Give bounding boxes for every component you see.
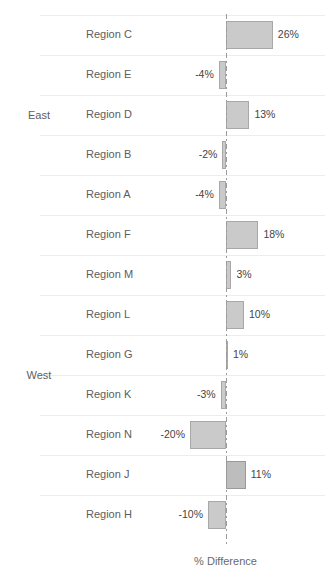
value-label: 26%	[278, 28, 299, 41]
chart-row: Region A-4%	[0, 175, 325, 215]
chart-row: Region B-2%	[0, 135, 325, 175]
category-label: Region A	[86, 188, 131, 201]
category-label: Region H	[86, 508, 132, 521]
gridline	[40, 175, 325, 176]
category-label: Region G	[86, 348, 132, 361]
category-label: Region D	[86, 108, 132, 121]
category-label: Region F	[86, 228, 131, 241]
category-label: Region N	[86, 428, 132, 441]
category-label: Region B	[86, 148, 131, 161]
value-label: -20%	[160, 428, 185, 441]
category-label: Region L	[86, 308, 130, 321]
x-axis-title: % Difference	[0, 555, 325, 568]
gridline	[40, 215, 325, 216]
chart-row: Region J11%	[0, 455, 325, 495]
bar[interactable]	[226, 301, 244, 329]
bar[interactable]	[226, 21, 273, 49]
chart-row: Region L10%	[0, 295, 325, 335]
value-label: 18%	[263, 228, 284, 241]
chart-row: Region F18%	[0, 215, 325, 255]
gridline	[40, 15, 325, 16]
value-label: -4%	[195, 188, 214, 201]
chart-row: Region E-4%	[0, 55, 325, 95]
value-label: -3%	[197, 388, 216, 401]
gridline	[40, 95, 325, 96]
bar[interactable]	[226, 101, 249, 129]
gridline	[40, 295, 325, 296]
bar[interactable]	[226, 461, 246, 489]
value-label: 13%	[254, 108, 275, 121]
chart-row: Region N-20%	[0, 415, 325, 455]
gridline	[40, 455, 325, 456]
bar[interactable]	[190, 421, 226, 449]
gridline	[40, 335, 325, 336]
percent-difference-bar-chart: Region C26%Region E-4%Region D13%Region …	[0, 0, 325, 581]
zero-axis-line	[226, 14, 227, 547]
value-label: -2%	[199, 148, 218, 161]
value-label: 10%	[249, 308, 270, 321]
category-label: Region M	[86, 268, 133, 281]
bar[interactable]	[219, 61, 226, 89]
category-label: Region K	[86, 388, 131, 401]
category-label: Region E	[86, 68, 131, 81]
plot-area: Region C26%Region E-4%Region D13%Region …	[0, 0, 325, 545]
gridline	[40, 415, 325, 416]
gridline	[40, 55, 325, 56]
bar[interactable]	[226, 221, 258, 249]
x-axis-title-text: % Difference	[194, 555, 257, 567]
chart-row: Region C26%	[0, 15, 325, 55]
value-label: 3%	[236, 268, 251, 281]
value-label: -10%	[178, 508, 203, 521]
chart-row: Region H-10%	[0, 495, 325, 535]
category-label: Region C	[86, 28, 132, 41]
chart-row: Region M3%	[0, 255, 325, 295]
bar[interactable]	[208, 501, 226, 529]
gridline	[40, 135, 325, 136]
gridline	[40, 375, 325, 376]
value-label: 1%	[233, 348, 248, 361]
gridline	[40, 255, 325, 256]
group-label-west: West	[0, 369, 78, 381]
value-label: 11%	[251, 468, 271, 481]
group-label-east: East	[0, 109, 78, 121]
gridline	[40, 495, 325, 496]
value-label: -4%	[195, 68, 214, 81]
category-label: Region J	[86, 468, 129, 481]
bar[interactable]	[219, 181, 226, 209]
chart-row: Region K-3%	[0, 375, 325, 415]
